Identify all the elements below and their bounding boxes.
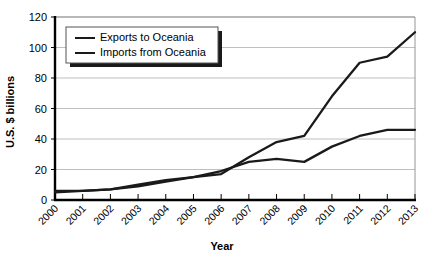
legend-label-imports: Imports from Oceania	[100, 46, 207, 58]
y-tick-label: 100	[29, 42, 47, 54]
legend-label-exports: Exports to Oceania	[100, 31, 194, 43]
x-axis-title: Year	[210, 240, 234, 252]
y-tick-label: 120	[29, 11, 47, 23]
y-tick-label: 80	[35, 72, 47, 84]
chart-legend: Exports to Oceania Imports from Oceania	[66, 27, 222, 67]
y-axis-title: U.S. $ billions	[4, 76, 16, 148]
y-tick-label: 60	[35, 103, 47, 115]
y-tick-label: 20	[35, 164, 47, 176]
line-chart: 020406080100120 200020012002200320042005…	[0, 0, 436, 260]
y-tick-label: 40	[35, 133, 47, 145]
y-tick-label: 0	[41, 194, 47, 206]
chart-svg: 020406080100120 200020012002200320042005…	[0, 0, 436, 260]
